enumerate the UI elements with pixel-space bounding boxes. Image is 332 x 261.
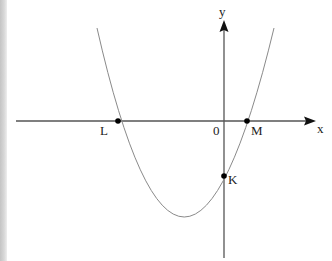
y-axis-label: y — [219, 4, 226, 19]
point-k-label: K — [228, 172, 238, 187]
point-l-label: L — [100, 123, 108, 138]
point-m — [244, 118, 250, 124]
origin-label: 0 — [213, 123, 220, 138]
point-l — [115, 118, 121, 124]
graph-canvas: y x 0 L M K — [0, 0, 332, 261]
point-m-label: M — [251, 123, 263, 138]
point-k — [221, 173, 227, 179]
x-axis-label: x — [317, 121, 324, 136]
